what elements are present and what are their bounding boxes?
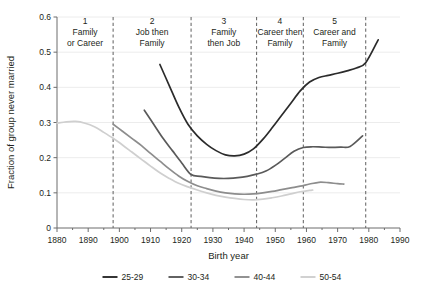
phase-label-line1: Job then — [136, 27, 169, 37]
line-chart: 1Familyor Career2Job thenFamily3Familyth… — [0, 0, 431, 298]
y-axis-tick-label: 0.5 — [39, 47, 51, 57]
x-axis-tick-label: 1950 — [266, 235, 285, 245]
series-line-25-29 — [160, 40, 378, 156]
x-axis: 1880189019001910192019301940195019601970… — [48, 228, 410, 245]
phase-label-line2: Family — [140, 38, 166, 48]
phase-number: 2 — [150, 16, 155, 26]
phase-label-line1: Career then — [258, 27, 303, 37]
y-axis-tick-label: 0.3 — [39, 118, 51, 128]
phase-label-line2: Family — [267, 38, 293, 48]
data-series — [57, 40, 378, 200]
phase-number: 5 — [332, 16, 337, 26]
y-axis-tick-label: 0.2 — [39, 153, 51, 163]
x-axis-tick-label: 1920 — [172, 235, 191, 245]
phase-number: 1 — [83, 16, 88, 26]
x-axis-tick-label: 1930 — [203, 235, 222, 245]
y-axis-tick-label: 0.6 — [39, 12, 51, 22]
phase-label-line1: Family — [211, 27, 237, 37]
legend-label-30-34: 30-34 — [188, 272, 210, 282]
phase-label-line2: then Job — [208, 38, 241, 48]
y-axis-tick-label: 0.4 — [39, 82, 51, 92]
phase-number: 4 — [278, 16, 283, 26]
y-axis-tick-label: 0 — [46, 223, 51, 233]
x-axis-tick-label: 1970 — [328, 235, 347, 245]
phase-labels: 1Familyor Career2Job thenFamily3Familyth… — [67, 16, 356, 48]
legend-label-50-54: 50-54 — [320, 272, 342, 282]
x-axis-tick-label: 1880 — [48, 235, 67, 245]
phase-label-line1: Family — [73, 27, 99, 37]
legend-label-40-44: 40-44 — [254, 272, 276, 282]
x-axis-title: Birth year — [208, 250, 249, 261]
chart-container: 1Familyor Career2Job thenFamily3Familyth… — [0, 0, 431, 298]
x-axis-tick-label: 1890 — [79, 235, 98, 245]
series-line-30-34 — [144, 110, 362, 178]
y-axis: 00.10.20.30.40.50.6 — [39, 12, 57, 233]
x-axis-tick-label: 1980 — [359, 235, 378, 245]
phase-number: 3 — [221, 16, 226, 26]
x-axis-tick-label: 1910 — [141, 235, 160, 245]
y-axis-tick-label: 0.1 — [39, 188, 51, 198]
x-axis-tick-label: 1960 — [297, 235, 316, 245]
series-line-40-44 — [113, 124, 344, 194]
phase-label-line2: Family — [322, 38, 348, 48]
x-axis-tick-label: 1900 — [110, 235, 129, 245]
phase-label-line2: or Career — [67, 38, 103, 48]
x-axis-tick-label: 1940 — [235, 235, 254, 245]
phase-label-line1: Career and — [313, 27, 356, 37]
legend: 25-2930-3440-4450-54 — [103, 272, 342, 282]
series-line-50-54 — [57, 121, 313, 200]
y-axis-title: Fraction of group never married — [5, 56, 16, 189]
x-axis-tick-label: 1990 — [391, 235, 410, 245]
legend-label-25-29: 25-29 — [122, 272, 144, 282]
